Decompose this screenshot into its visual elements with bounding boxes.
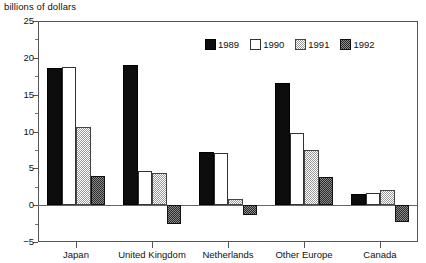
bar-1991-canada (380, 190, 395, 205)
bar-1990-united-kingdom (138, 171, 153, 205)
legend-label: 1991 (308, 39, 329, 50)
y-axis-minor-tick (35, 39, 38, 40)
bar-1989-canada (351, 194, 366, 205)
bar-1992-japan (91, 176, 106, 205)
bar-1992-netherlands (243, 205, 258, 215)
bar-1991-united-kingdom (152, 173, 167, 205)
legend-item-1989: 1989 (205, 39, 239, 50)
chart-legend: 1989199019911992 (205, 38, 375, 51)
y-axis-minor-tick (35, 113, 38, 114)
x-axis-tick (228, 242, 229, 248)
legend-item-1992: 1992 (340, 39, 374, 50)
y-axis-tick-label: −5 (23, 237, 34, 247)
legend-label: 1990 (263, 39, 284, 50)
bar-1991-japan (76, 127, 91, 205)
y-axis-minor-tick (35, 224, 38, 225)
x-axis-category-label: Canada (363, 249, 396, 260)
y-axis-minor-tick (35, 76, 38, 77)
legend-label: 1992 (353, 39, 374, 50)
x-axis-category-label: Japan (63, 249, 89, 260)
x-axis-category-label: Netherlands (202, 249, 253, 260)
y-axis-minor-tick (35, 187, 38, 188)
x-axis-category-label: Other Europe (275, 249, 332, 260)
bar-1992-united-kingdom (167, 205, 182, 224)
y-axis-tick-label: 25 (23, 16, 34, 26)
legend-label: 1989 (218, 39, 239, 50)
chart-title: billions of dollars (4, 1, 76, 12)
bar-1991-netherlands (228, 199, 243, 206)
bar-1991-other-europe (304, 150, 319, 205)
y-axis-minor-tick (35, 150, 38, 151)
legend-swatch-icon (295, 39, 306, 50)
x-axis-tick (152, 242, 153, 248)
legend-swatch-icon (205, 39, 216, 50)
bar-1992-other-europe (319, 177, 334, 205)
x-axis-tick (76, 242, 77, 248)
bar-1989-other-europe (275, 83, 290, 205)
legend-swatch-icon (250, 39, 261, 50)
bar-1990-netherlands (214, 153, 229, 205)
bar-1990-canada (366, 193, 381, 205)
bar-1990-other-europe (290, 133, 305, 205)
legend-item-1991: 1991 (295, 39, 329, 50)
bar-1992-canada (395, 205, 410, 222)
x-axis-tick (380, 242, 381, 248)
y-axis-tick-label: 10 (23, 127, 34, 137)
bar-1989-netherlands (199, 152, 214, 205)
x-axis-category-label: United Kingdom (118, 249, 186, 260)
legend-item-1990: 1990 (250, 39, 284, 50)
legend-swatch-icon (340, 39, 351, 50)
x-axis-tick (304, 242, 305, 248)
bar-1990-japan (62, 67, 77, 205)
bar-1989-united-kingdom (123, 65, 138, 205)
y-axis-tick-label: 0 (29, 200, 34, 210)
y-axis-tick-label: 5 (29, 163, 34, 173)
bar-1989-japan (47, 68, 62, 205)
plot-area (38, 21, 418, 242)
y-axis-tick-label: 15 (23, 90, 34, 100)
bar-chart: billions of dollars −50510152025 JapanUn… (0, 0, 426, 263)
y-axis-tick-label: 20 (23, 53, 34, 63)
